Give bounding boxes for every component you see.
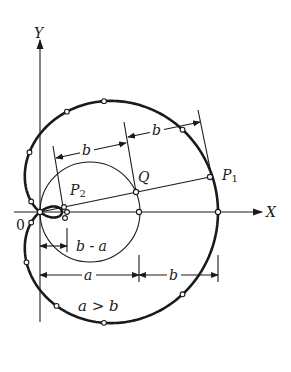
point-p2-label: P2 [69,182,86,199]
curve-point [29,220,34,225]
curve-point [180,292,185,297]
curve-point [102,99,107,104]
dim-label-inner: b - a [76,238,107,254]
dim-label-top-left: b [82,142,91,158]
dim-label-bottom-right: b [169,267,178,283]
x-axis-label: X [265,204,277,220]
dim-label-top-right: b [152,122,161,138]
curve-point [29,199,34,204]
point-p2 [62,205,67,210]
point-origin [37,209,42,214]
point-loop-x [65,210,70,215]
point-loop-low [63,216,68,221]
curve-point [102,320,107,325]
origin-label: 0 [16,217,25,233]
curve-point [180,127,185,132]
limacon-diagram: Y X 0 Q P1 P2 b b b - a a b a > b [0,0,291,372]
point-circle-x [136,209,141,214]
extension-line-p1 [198,110,212,178]
point-q-label: Q [138,169,150,185]
curve-point [54,304,59,309]
condition-label: a > b [78,297,119,315]
point-p1-label: P1 [221,167,238,184]
curve-point [24,260,29,265]
point-q [133,189,138,194]
point-p1 [207,174,212,179]
curve-point [64,109,69,114]
dim-label-bottom-left: a [84,267,92,283]
curve-point [27,150,32,155]
y-axis-label: Y [34,25,45,41]
point-curve-x [215,209,220,214]
